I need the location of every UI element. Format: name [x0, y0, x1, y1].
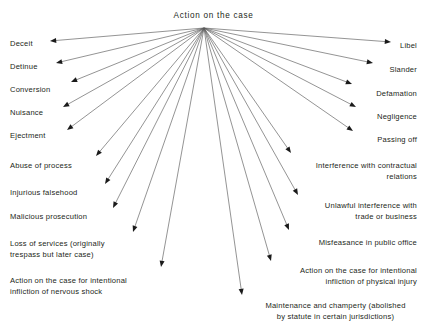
edge-injurious-falsehood	[107, 28, 204, 180]
edge-malicious-prosecution	[115, 28, 204, 204]
node-label-misfeasance: Misfeasance in public office	[287, 237, 417, 248]
edge-defamation	[204, 28, 348, 82]
arrowhead-abuse-of-process	[96, 150, 102, 156]
node-label-loss-of-services: Loss of services (originally trespass bu…	[10, 238, 140, 260]
arrowhead-malicious-prosecution	[113, 201, 118, 208]
arrowhead-injurious-falsehood	[105, 177, 110, 184]
edge-nuisance	[67, 28, 204, 105]
node-label-slander: Slander	[378, 64, 417, 75]
node-label-injurious-falsehood: Injurious falsehood	[10, 187, 98, 198]
arrowhead-nervous-shock	[160, 260, 165, 267]
arrowhead-misfeasance	[284, 223, 289, 230]
root-node-label: Action on the case	[0, 11, 427, 20]
edge-misfeasance	[204, 28, 287, 226]
node-label-unlawful-interference: Unlawful interference with trade or busi…	[287, 200, 417, 222]
edge-nervous-shock	[162, 28, 204, 263]
node-label-interference-contractual: Interference with contractual relations	[287, 160, 417, 182]
arrowhead-slander	[366, 59, 373, 64]
node-label-physical-injury: Action on the case for intentional infli…	[257, 265, 417, 287]
arrowhead-detinue	[56, 59, 63, 64]
node-label-deceit: Deceit	[10, 38, 46, 49]
edge-physical-injury	[204, 28, 270, 257]
node-label-conversion: Conversion	[10, 84, 65, 95]
node-label-negligence: Negligence	[361, 111, 417, 122]
node-label-detinue: Detinue	[10, 61, 51, 72]
node-label-nuisance: Nuisance	[10, 107, 58, 118]
node-label-passing-off: Passing off	[362, 134, 417, 145]
node-label-ejectment: Ejectment	[10, 130, 60, 141]
arrowhead-maintenance-champerty	[239, 289, 244, 295]
edge-negligence	[204, 28, 352, 105]
arrowhead-nuisance	[63, 102, 70, 107]
node-label-nervous-shock: Action on the case for intentional infli…	[10, 275, 170, 297]
node-label-malicious-prosecution: Malicious prosecution	[10, 211, 110, 222]
edge-deceit	[54, 28, 204, 41]
arrowhead-defamation	[345, 79, 352, 84]
node-label-maintenance-champerty: Maintenance and champerty (abolished by …	[248, 300, 423, 322]
edge-maintenance-champerty	[204, 28, 241, 291]
node-label-libel: Libel	[392, 40, 417, 51]
edge-unlawful-interference	[204, 28, 296, 191]
diagram-canvas: Action on the case DeceitDetinueConversi…	[0, 0, 427, 333]
edge-ejectment	[71, 28, 204, 127]
node-label-defamation: Defamation	[358, 88, 417, 99]
arrowhead-conversion	[71, 77, 78, 82]
edge-libel	[204, 28, 387, 42]
arrowhead-negligence	[349, 102, 356, 107]
arrowhead-libel	[385, 39, 391, 44]
arrowhead-physical-injury	[267, 254, 272, 261]
arrowhead-unlawful-interference	[293, 188, 298, 195]
edge-abuse-of-process	[99, 28, 204, 153]
arrowhead-deceit	[50, 38, 56, 43]
arrowhead-loss-of-services	[133, 225, 138, 232]
arrowhead-interference-contractual	[285, 146, 291, 153]
edge-loss-of-services	[134, 28, 204, 228]
edge-interference-contractual	[204, 28, 288, 149]
arrowhead-passing-off	[346, 125, 353, 131]
node-label-abuse-of-process: Abuse of process	[10, 160, 93, 171]
arrowhead-ejectment	[67, 124, 73, 130]
